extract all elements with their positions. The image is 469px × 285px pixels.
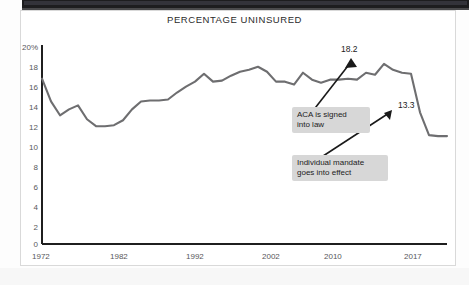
figure-page: PERCENTAGE UNINSURED 20% 18 16 14 12 10 … (0, 0, 469, 285)
mandate-value-label: 13.3 (398, 100, 415, 110)
line-chart-plot (0, 0, 469, 285)
data-series-line (42, 64, 447, 136)
annotation-individual-mandate: Individual mandate goes into effect (292, 155, 388, 181)
axis-lines (42, 45, 447, 244)
peak-value-label: 18.2 (341, 44, 358, 54)
annotation-aca-signed: ACA is signed into law (292, 107, 370, 133)
